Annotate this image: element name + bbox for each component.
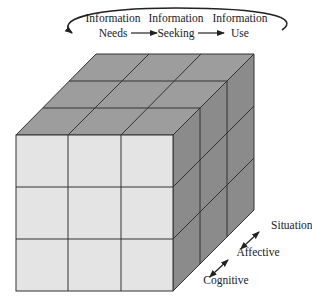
cube — [16, 54, 254, 291]
dimension-situational: Situational — [271, 219, 312, 231]
process-stages: Information Needs Information Seeking In… — [86, 12, 268, 40]
dimension-cognitive: Cognitive — [203, 274, 248, 287]
dimension-affective: Affective — [236, 246, 279, 258]
stage-1-line1: Information — [86, 12, 141, 24]
cube-front-face — [16, 135, 173, 291]
double-arrow-cognitive-affective-icon — [214, 260, 228, 273]
information-behavior-cube-diagram: Information Needs Information Seeking In… — [0, 0, 312, 305]
stage-2-line2: Seeking — [157, 27, 194, 40]
stage-3-line2: Use — [231, 27, 249, 39]
stage-3-line1: Information — [213, 12, 268, 24]
stage-1-line2: Needs — [99, 27, 128, 39]
double-arrow-affective-situational-icon — [245, 232, 259, 245]
stage-2-line1: Information — [149, 12, 204, 24]
